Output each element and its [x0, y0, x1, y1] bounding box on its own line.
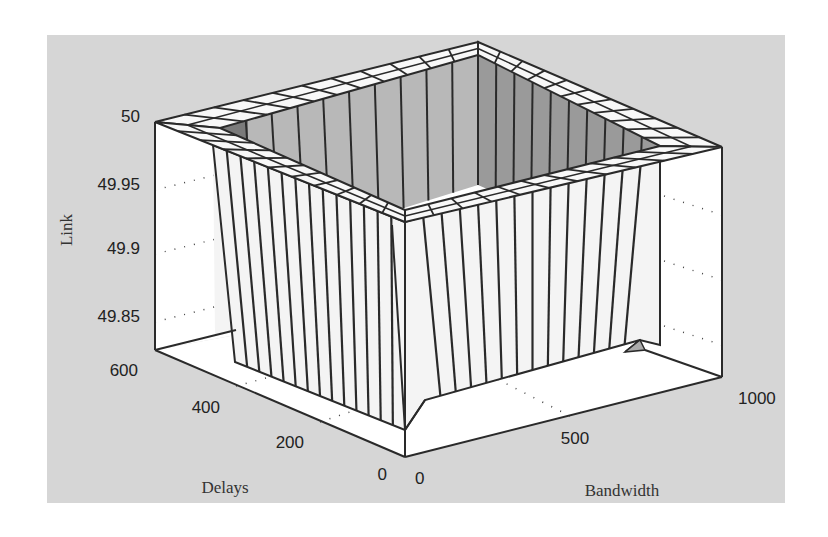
y-tick-label: 400 [192, 398, 220, 417]
z-axis-title: Link [57, 213, 76, 246]
z-tick-label: 49.95 [97, 175, 140, 194]
y-tick-label: 0 [378, 465, 387, 484]
y-axis-title: Delays [201, 478, 248, 497]
x-tick-label: 0 [415, 469, 424, 488]
segment [223, 149, 270, 150]
y-tick-label: 200 [276, 433, 304, 452]
x-axis-title: Bandwidth [585, 481, 660, 500]
z-tick-label: 49.9 [107, 239, 140, 258]
z-tick-label: 50 [121, 107, 140, 126]
surface-chart: 50 49.95 49.9 49.85 600 400 200 0 0 500 … [0, 0, 828, 537]
y-tick-label: 600 [110, 361, 138, 380]
z-tick-label: 49.85 [97, 307, 140, 326]
segment [513, 73, 514, 200]
segment [246, 158, 287, 159]
segment [452, 62, 453, 192]
x-tick-label: 1000 [738, 389, 776, 408]
x-tick-label: 500 [561, 429, 589, 448]
segment [496, 64, 497, 193]
